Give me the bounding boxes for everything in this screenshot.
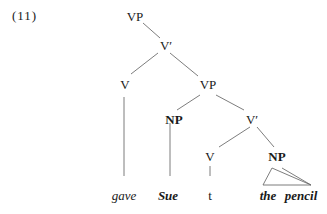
- node-vbar-upper: V′: [160, 39, 172, 53]
- node-v-lower: V: [205, 150, 214, 164]
- node-vp-lower: VP: [200, 78, 217, 92]
- leaf-the: the: [260, 189, 277, 203]
- node-v-upper: V: [120, 78, 129, 92]
- node-vp-root: VP: [127, 10, 144, 24]
- node-vbar-lower: V′: [246, 113, 258, 127]
- leaf-trace: t: [208, 189, 212, 203]
- leaf-pencil: pencil: [285, 189, 318, 203]
- node-np-sue: NP: [165, 113, 182, 127]
- leaf-gave: gave: [112, 189, 137, 203]
- tree-branches: [0, 0, 327, 214]
- leaf-sue: Sue: [158, 189, 178, 203]
- node-np-object: NP: [268, 150, 285, 164]
